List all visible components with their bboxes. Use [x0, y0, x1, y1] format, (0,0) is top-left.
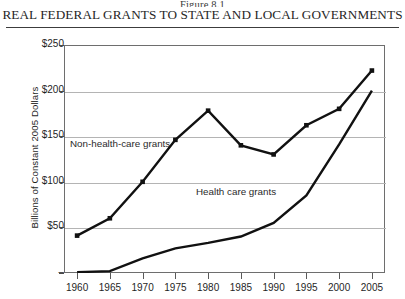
x-tick-label-2005: 2005 [352, 282, 392, 293]
series-line-non-health-care-grants [77, 71, 372, 236]
x-tick-mark-1975 [175, 273, 176, 279]
series-label-health-care-grants: Health care grants [196, 186, 276, 197]
data-point-non-health-care-grants-1995 [304, 123, 309, 128]
line-chart: Billions of Constant 2005 Dollars –$50$1… [0, 0, 405, 299]
y-tick-label-200: $200 [24, 84, 64, 95]
data-point-non-health-care-grants-1965 [108, 216, 113, 221]
y-axis: Billions of Constant 2005 Dollars –$50$1… [18, 45, 64, 273]
x-tick-mark-1995 [306, 273, 307, 279]
data-point-non-health-care-grants-1990 [271, 152, 276, 157]
x-tick-mark-1980 [208, 273, 209, 279]
x-tick-mark-1960 [77, 273, 78, 279]
data-point-non-health-care-grants-2000 [337, 107, 342, 112]
y-tick-label-50: $50 [24, 220, 64, 231]
series-line-health-care-grants [77, 91, 372, 272]
x-tick-mark-2000 [339, 273, 340, 279]
x-tick-mark-1965 [110, 273, 111, 279]
data-point-non-health-care-grants-1970 [140, 180, 145, 185]
x-tick-mark-2005 [372, 273, 373, 279]
y-tick-label-250: $250 [24, 38, 64, 49]
x-axis: 1960196519701975198019851990199520002005 [64, 273, 385, 299]
y-axis-title: Billions of Constant 2005 Dollars [29, 38, 40, 278]
series-label-non-health-care-grants: Non-health-care grants [70, 138, 170, 149]
series-container [64, 45, 385, 273]
data-point-non-health-care-grants-2005 [370, 68, 375, 73]
data-point-non-health-care-grants-1975 [173, 138, 178, 143]
y-tick-label-150: $150 [24, 129, 64, 140]
x-tick-mark-1985 [241, 273, 242, 279]
y-tick-label-0: – [24, 266, 64, 277]
data-point-non-health-care-grants-1985 [239, 143, 244, 148]
data-point-non-health-care-grants-1960 [75, 233, 80, 238]
data-point-non-health-care-grants-1980 [206, 108, 211, 113]
y-tick-label-100: $100 [24, 175, 64, 186]
x-tick-mark-1990 [274, 273, 275, 279]
x-tick-mark-1970 [143, 273, 144, 279]
